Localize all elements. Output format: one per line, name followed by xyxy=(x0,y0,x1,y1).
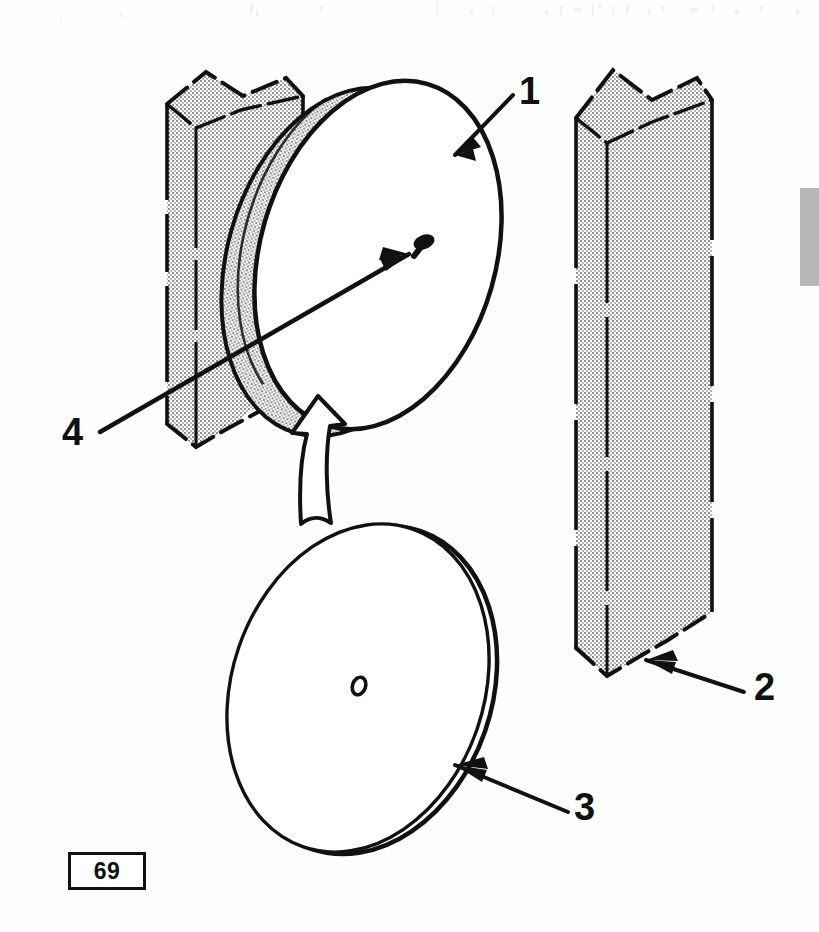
leader-line-3 xyxy=(455,757,568,812)
leader-line-2 xyxy=(646,650,744,692)
technical-illustration: 1 2 3 4 69 xyxy=(0,0,819,932)
lower-disc xyxy=(184,488,540,890)
right-post xyxy=(576,70,712,676)
callout-number-4: 4 xyxy=(62,413,83,451)
callout-number-2: 2 xyxy=(754,668,775,706)
callout-number-1: 1 xyxy=(519,72,540,110)
margin-index-tab xyxy=(800,188,819,286)
callout-number-3: 3 xyxy=(574,788,595,826)
page-number-box: 69 xyxy=(68,852,146,890)
page-number-value: 69 xyxy=(94,858,121,885)
